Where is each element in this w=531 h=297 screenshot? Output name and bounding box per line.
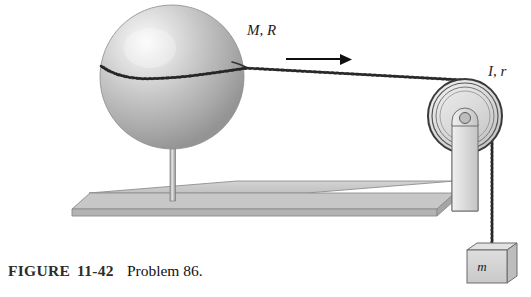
table-top-surface	[72, 193, 455, 209]
sphere-label: M, R	[246, 22, 276, 38]
physics-diagram: M, R I, r m	[0, 0, 531, 297]
figure-caption: FIGURE11-42Problem 86.	[8, 262, 203, 280]
caption-problem-text: Problem 86.	[127, 262, 203, 279]
caption-number: 11-42	[77, 262, 114, 279]
axle-bolt	[460, 113, 471, 124]
table-front-edge	[72, 209, 437, 216]
block-front-face	[467, 250, 507, 283]
hanging-block	[467, 243, 517, 283]
block-right-face	[507, 243, 517, 283]
figure-container: M, R I, r m FIGURE11-42Problem 86.	[0, 0, 531, 297]
pulley-label: I, r	[487, 63, 506, 79]
hanging-mass-label: m	[477, 259, 486, 274]
bracket-front-plate	[452, 124, 478, 211]
table-top-face	[89, 181, 455, 193]
caption-label: FIGURE	[8, 262, 70, 279]
force-direction-arrow	[286, 54, 352, 65]
